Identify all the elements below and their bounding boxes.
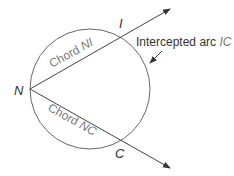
point-label-c: C xyxy=(115,146,125,161)
point-label-i: I xyxy=(119,16,123,31)
chord-nc-label: Chord NC xyxy=(46,100,100,138)
inscribed-angle-diagram: N I C Chord NI Chord NC Intercepted arc … xyxy=(0,0,234,176)
intercepted-arc-label: Intercepted arc IC xyxy=(136,35,232,49)
point-label-n: N xyxy=(14,83,24,98)
arc-pointer-arrow xyxy=(150,51,162,63)
